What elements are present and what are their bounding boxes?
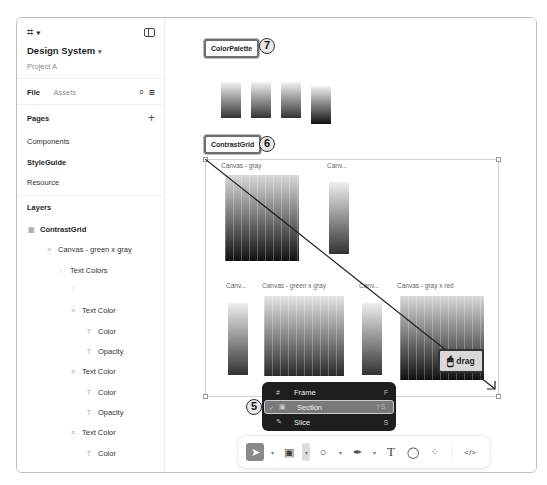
text-icon: T	[85, 348, 93, 355]
palette-swatch[interactable]	[221, 82, 241, 118]
main-menu-button[interactable]: ⌗ ▾	[27, 26, 41, 39]
annotation-badge: 5	[246, 399, 262, 415]
app-window: ⌗ ▾ Design System ▾ Project A File Asset…	[16, 17, 537, 473]
section-icon: ▣	[27, 226, 35, 234]
mouse-icon: 🖱	[447, 355, 454, 368]
layer-item[interactable]: ≡Canvas - green x gray	[45, 245, 132, 254]
layer-item[interactable]: ≡Text Color	[69, 306, 116, 315]
palette-swatch[interactable]	[251, 82, 271, 118]
tab-assets[interactable]: Assets	[54, 88, 77, 97]
text-icon: T	[85, 389, 93, 396]
component-icon: ⫶	[69, 286, 77, 294]
text-icon: T	[85, 450, 93, 457]
layer-item[interactable]: ⫶	[69, 286, 82, 294]
chevron-down-icon[interactable]: ▾	[302, 443, 310, 461]
library-icon[interactable]: ⊞	[149, 87, 155, 97]
text-icon: T	[85, 328, 93, 335]
layer-item[interactable]: TColor	[85, 388, 116, 397]
page-item-resource[interactable]: Resource	[27, 178, 59, 187]
layers-label: Layers	[27, 203, 51, 212]
annotation-badge: 7	[259, 38, 275, 54]
pen-tool-icon[interactable]: ✒	[348, 443, 366, 461]
tab-file[interactable]: File	[27, 88, 40, 97]
text-tool-icon[interactable]: T	[382, 443, 400, 461]
check-icon: ✓	[269, 404, 279, 411]
slice-icon: ✎	[276, 418, 288, 426]
frame-icon: ≡	[69, 307, 77, 314]
search-icon[interactable]: ⌕	[139, 87, 144, 97]
divider	[17, 104, 165, 105]
project-subtitle: Project A	[27, 62, 57, 71]
shape-tool-icon[interactable]: ○	[314, 443, 332, 461]
frame-label-contrastgrid[interactable]: ContrastGrid	[204, 135, 261, 154]
text-icon: T	[85, 409, 93, 416]
frame-icon: ≡	[69, 368, 77, 375]
dev-mode-icon[interactable]: </>	[461, 443, 479, 461]
panel-toggle-icon[interactable]	[144, 28, 155, 37]
section-icon: ▣	[279, 403, 291, 411]
chevron-down-icon[interactable]: ▾	[268, 443, 276, 461]
project-title[interactable]: Design System ▾	[27, 45, 102, 56]
frame-tool-icon[interactable]: ▣	[280, 443, 298, 461]
tab-icons: ⌕ ⊞	[139, 87, 155, 98]
menu-item-frame[interactable]: # Frame F	[262, 385, 396, 399]
page-item-styleguide[interactable]: StyleGuide	[27, 158, 66, 167]
actions-icon[interactable]: ⁘	[426, 443, 444, 461]
layer-item[interactable]: TColor	[85, 327, 116, 336]
add-page-icon[interactable]: +	[148, 113, 155, 123]
pages-label: Pages	[27, 114, 49, 123]
layer-item[interactable]: ⫶Text Colors	[57, 266, 108, 275]
drag-tooltip: 🖱 drag	[438, 349, 484, 373]
palette-swatch[interactable]	[281, 82, 301, 118]
page-item-components[interactable]: Components	[27, 137, 70, 146]
frame-icon: #	[276, 389, 288, 396]
layer-item[interactable]: ≡Text Color	[69, 367, 116, 376]
chevron-down-icon[interactable]: ▾	[336, 443, 344, 461]
layer-item[interactable]: TColor	[85, 449, 116, 458]
sidebar-tabs: File Assets	[27, 88, 88, 97]
chevron-down-icon[interactable]: ▾	[370, 443, 378, 461]
annotation-badge: 6	[259, 136, 275, 152]
comment-tool-icon[interactable]: ◯	[404, 443, 422, 461]
left-sidebar: ⌗ ▾ Design System ▾ Project A File Asset…	[17, 18, 165, 472]
move-tool-icon[interactable]: ➤	[246, 443, 264, 461]
palette-swatch[interactable]	[311, 86, 331, 124]
canvas[interactable]: ColorPalette 7 ContrastGrid 6 Canvas - g…	[166, 18, 536, 472]
frame-icon: ≡	[45, 246, 53, 253]
divider	[452, 443, 453, 461]
layer-item[interactable]: TOpacity	[85, 347, 123, 356]
frame-icon: ≡	[69, 429, 77, 436]
autolayout-icon: ⫶	[57, 267, 65, 275]
bottom-toolbar: ➤ ▾ ▣ ▾ ○ ▾ ✒ ▾ T ◯ ⁘ </>	[238, 436, 490, 468]
layer-item[interactable]: ▣ContrastGrid	[27, 225, 86, 234]
frame-tool-menu: # Frame F ✓ ▣ Section ⇧S ✎ Slice S	[262, 382, 396, 431]
divider	[17, 195, 165, 196]
frame-label-colorpalette[interactable]: ColorPalette	[204, 39, 259, 58]
layer-item[interactable]: ≡Text Color	[69, 428, 116, 437]
menu-item-section[interactable]: ✓ ▣ Section ⇧S	[264, 400, 394, 414]
menu-item-slice[interactable]: ✎ Slice S	[262, 415, 396, 429]
divider	[17, 78, 165, 79]
layer-item[interactable]: TOpacity	[85, 408, 123, 417]
